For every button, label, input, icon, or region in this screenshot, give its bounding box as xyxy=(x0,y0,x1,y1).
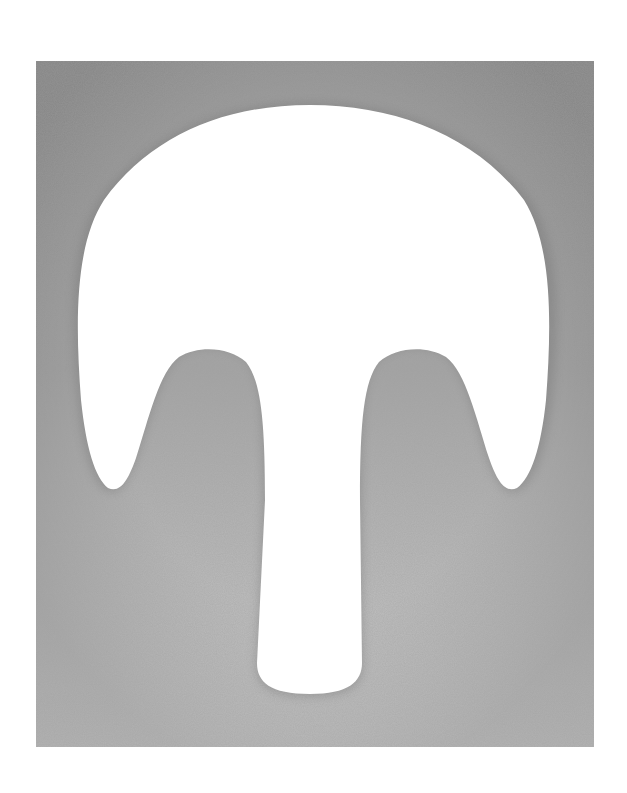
artwork xyxy=(0,0,627,793)
